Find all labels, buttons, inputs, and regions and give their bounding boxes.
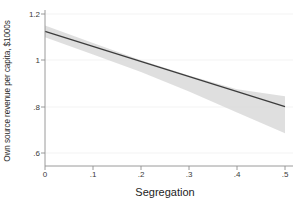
x-tick-label: 0 bbox=[30, 170, 60, 179]
x-tick-label: .1 bbox=[78, 170, 108, 179]
x-tick-label: .5 bbox=[270, 170, 300, 179]
x-tick-label: .4 bbox=[222, 170, 252, 179]
x-tick-label: .2 bbox=[126, 170, 156, 179]
axis-spines bbox=[45, 10, 293, 166]
confidence-band bbox=[45, 26, 285, 134]
regression-line bbox=[45, 31, 285, 106]
x-axis-title: Segregation bbox=[45, 186, 285, 198]
y-tick-marks bbox=[41, 14, 45, 153]
gridlines bbox=[45, 14, 293, 153]
x-tick-label: .3 bbox=[174, 170, 204, 179]
x-axis-tick-labels: 0 .1 .2 .3 .4 .5 bbox=[0, 170, 302, 184]
chart-figure: Own source revenue per capita, $1000s 1.… bbox=[0, 0, 302, 210]
